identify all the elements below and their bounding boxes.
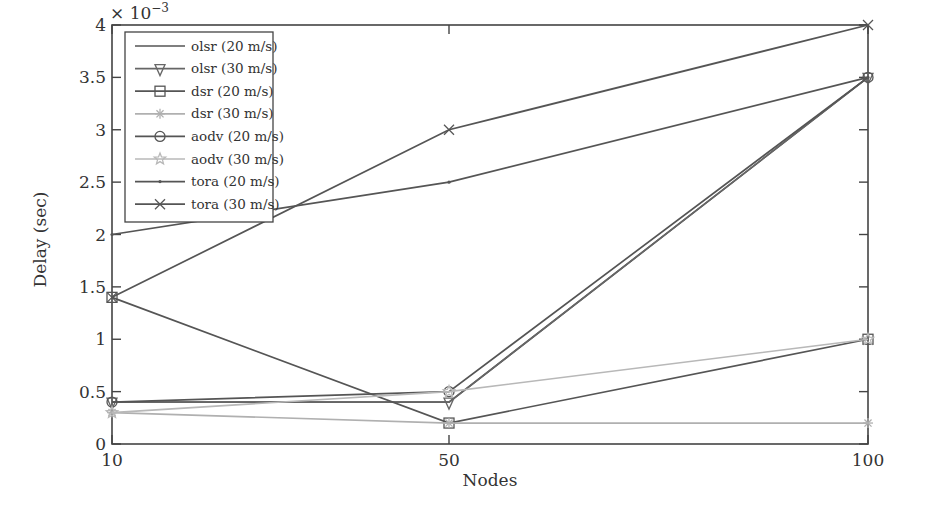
x-tick-label: 50 bbox=[438, 450, 460, 470]
x-tick-label: 10 bbox=[101, 450, 123, 470]
dot-marker-icon bbox=[447, 181, 450, 184]
x-axis-title: Nodes bbox=[463, 470, 518, 490]
dot-marker-icon bbox=[158, 180, 161, 183]
dot-shape bbox=[110, 233, 113, 236]
asterisk-marker-icon bbox=[155, 109, 165, 119]
legend: olsr (20 m/s)olsr (30 m/s)dsr (20 m/s)ds… bbox=[125, 32, 284, 222]
legend-entry: dsr (30 m/s) bbox=[191, 105, 274, 121]
y-multiplier-label: × 10−3 bbox=[110, 1, 169, 23]
y-tick-label: 2.5 bbox=[79, 172, 106, 192]
y-tick-label: 1 bbox=[95, 329, 106, 349]
y-axis-title: Delay (sec) bbox=[30, 192, 50, 288]
line-chart: 00.511.522.533.541050100NodesDelay (sec)… bbox=[0, 0, 927, 514]
legend-entry: tora (30 m/s) bbox=[191, 196, 280, 212]
asterisk-marker-icon bbox=[863, 418, 873, 428]
dot-marker-icon bbox=[110, 233, 113, 236]
y-tick-label: 1.5 bbox=[79, 277, 106, 297]
y-tick-label: 3 bbox=[95, 120, 106, 140]
dot-shape bbox=[158, 180, 161, 183]
y-tick-label: 3.5 bbox=[79, 67, 106, 87]
series-3 bbox=[107, 408, 873, 428]
legend-entry: aodv (20 m/s) bbox=[191, 128, 284, 144]
legend-entry: tora (20 m/s) bbox=[191, 173, 280, 189]
y-tick-label: 4 bbox=[95, 15, 106, 35]
legend-entry: dsr (20 m/s) bbox=[191, 83, 274, 99]
legend-entry: aodv (30 m/s) bbox=[191, 151, 284, 167]
series-5 bbox=[106, 333, 873, 417]
asterisk-marker-icon bbox=[444, 418, 454, 428]
y-tick-label: 2 bbox=[95, 225, 106, 245]
dot-shape bbox=[866, 76, 869, 79]
dot-marker-icon bbox=[866, 76, 869, 79]
dot-shape bbox=[447, 181, 450, 184]
legend-entry: olsr (30 m/s) bbox=[191, 60, 277, 76]
y-tick-label: 0.5 bbox=[79, 382, 106, 402]
legend-entry: olsr (20 m/s) bbox=[191, 38, 277, 54]
x-tick-label: 100 bbox=[852, 450, 884, 470]
